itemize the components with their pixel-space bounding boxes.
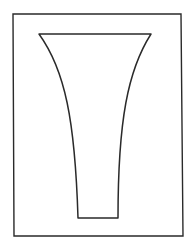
figure-canvas	[0, 0, 190, 245]
outer-frame	[13, 14, 183, 236]
vase-outline	[39, 34, 151, 218]
